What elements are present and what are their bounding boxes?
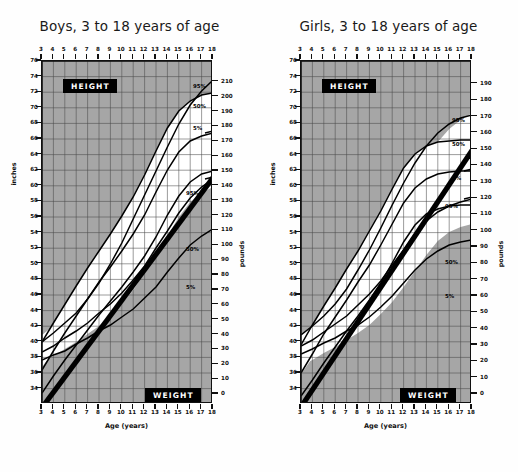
pounds-tickmark: [471, 343, 477, 344]
pounds-tickmark: [212, 273, 218, 274]
pounds-tick-label: 110: [480, 209, 492, 217]
pounds-tickmark: [471, 360, 477, 361]
height-pct-95-girls: 95%: [452, 117, 465, 123]
plot-area-boys: [41, 60, 212, 403]
pounds-tickmark: [471, 115, 477, 116]
height-pct-50-girls: 50%: [452, 141, 465, 147]
inches-tick-label: 40: [289, 337, 297, 345]
pounds-tick-label: 150: [221, 166, 233, 174]
age-tickmark: [345, 54, 346, 59]
age-tickmark: [402, 54, 403, 59]
inches-tick-label: 44: [289, 306, 297, 314]
weight-box-label-boys: WEIGHT: [145, 388, 201, 402]
age-axis-top-girls: 3456789101112131415161718: [300, 45, 471, 59]
inches-tick-label: 50: [289, 259, 297, 267]
inches-tick-label: 46: [289, 290, 297, 298]
plot-svg-boys: [42, 61, 212, 403]
pounds-tickmark: [212, 288, 218, 289]
pounds-tickmark: [471, 262, 477, 263]
inches-tick-label: 68: [30, 118, 38, 126]
inches-tick-label: 74: [30, 72, 38, 80]
pounds-tickmark: [471, 327, 477, 328]
inches-tick-label: 62: [289, 165, 297, 173]
pounds-tickmark: [212, 348, 218, 349]
age-tickmark: [425, 54, 426, 59]
inches-tick-label: 36: [289, 368, 297, 376]
pounds-tick-label: 150: [480, 144, 492, 152]
inches-tick-label: 58: [30, 196, 38, 204]
inches-tick-label: 72: [289, 87, 297, 95]
height-pct-95-boys: 95%: [193, 83, 206, 89]
pounds-tickmark: [471, 99, 477, 100]
pounds-tick-label: 160: [480, 128, 492, 136]
inches-tick-label: 48: [289, 274, 297, 282]
pounds-caption-boys: pounds: [238, 234, 246, 274]
pounds-tick-label: 180: [221, 121, 233, 129]
inches-tick-label: 52: [30, 243, 38, 251]
inches-caption-boys: inches: [10, 154, 18, 194]
height-box-label-girls: HEIGHT: [322, 79, 376, 93]
age-tickmark: [120, 54, 121, 59]
pounds-tick-label: 70: [480, 275, 488, 283]
pounds-tickmark: [212, 95, 218, 96]
age-tickmark: [459, 54, 460, 59]
age-tick-label: 18: [205, 409, 219, 415]
pounds-tickmark: [471, 131, 477, 132]
height-pct-50-boys: 50%: [193, 103, 206, 109]
pounds-tickmark: [212, 229, 218, 230]
pounds-tick-label: 90: [221, 255, 229, 263]
weight-pct-50-girls: 50%: [445, 259, 458, 265]
age-tickmark: [299, 54, 300, 59]
pounds-tick-label: 20: [480, 356, 488, 364]
pounds-tick-label: 50: [221, 315, 229, 323]
pounds-tickmark: [471, 294, 477, 295]
pounds-tick-label: 110: [221, 225, 233, 233]
pounds-tick-label: 60: [221, 300, 229, 308]
pounds-tick-label: 0: [480, 389, 484, 397]
inches-tick-label: 42: [30, 321, 38, 329]
inches-tick-label: 68: [289, 118, 297, 126]
pounds-tick-label: 190: [480, 79, 492, 87]
inches-tick-label: 36: [30, 368, 38, 376]
weight-pct-95-girls: 95%: [445, 203, 458, 209]
pounds-tickmark: [212, 259, 218, 260]
pounds-tick-label: 10: [480, 373, 488, 381]
pounds-tickmark: [471, 213, 477, 214]
age-tickmark: [52, 54, 53, 59]
pounds-tick-label: 50: [480, 307, 488, 315]
plot-area-girls: [300, 60, 471, 403]
pounds-tickmark: [212, 214, 218, 215]
inches-tick-label: 46: [30, 290, 38, 298]
pounds-tickmark: [212, 110, 218, 111]
age-tickmark: [189, 54, 190, 59]
age-tickmark: [413, 54, 414, 59]
age-caption-boys: Age (years): [41, 422, 212, 430]
plot-svg-girls: [301, 61, 471, 403]
age-tickmark: [143, 54, 144, 59]
pounds-tickmark: [471, 392, 477, 393]
weight-box-label-girls: WEIGHT: [400, 388, 456, 402]
age-tick-label: 18: [205, 46, 219, 52]
inches-tick-label: 70: [30, 103, 38, 111]
height-pct-5-boys: 5%: [193, 125, 202, 131]
age-tickmark: [166, 54, 167, 59]
panel-girls: Girls, 3 to 18 years of age 345678910111…: [259, 0, 518, 472]
inches-caption-girls: inches: [269, 154, 277, 194]
pounds-tickmark: [212, 303, 218, 304]
pounds-tickmark: [212, 244, 218, 245]
inches-tick-label: 38: [30, 352, 38, 360]
age-tickmark: [368, 54, 369, 59]
pounds-tick-label: 30: [480, 340, 488, 348]
age-tickmark: [379, 54, 380, 59]
pounds-tickmark: [212, 333, 218, 334]
pounds-tickmark: [212, 392, 218, 393]
age-tickmark: [322, 54, 323, 59]
inches-tick-label: 52: [289, 243, 297, 251]
inches-tick-label: 44: [30, 306, 38, 314]
age-tickmark: [391, 54, 392, 59]
age-tickmark: [356, 54, 357, 59]
pounds-tickmark: [471, 164, 477, 165]
pounds-tick-label: 160: [221, 151, 233, 159]
pounds-tick-label: 40: [480, 324, 488, 332]
pounds-tickmark: [471, 245, 477, 246]
